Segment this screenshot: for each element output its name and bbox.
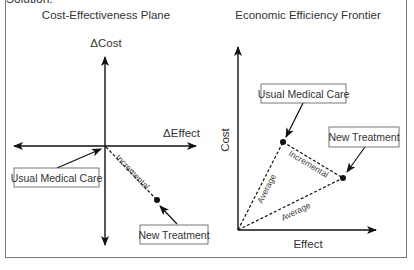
right-panel-title: Economic Efficiency Frontier (235, 9, 381, 21)
figure-canvas: Cost-Effectiveness Plane ΔCost ΔEffect I… (0, 0, 414, 270)
cost-axis-label: Cost (219, 127, 231, 151)
new-treatment-pointer-frontier (347, 147, 365, 172)
usual-care-point (280, 139, 286, 145)
new-treatment-point-frontier (340, 175, 346, 181)
new-treatment-label: New Treatment (138, 229, 209, 241)
cost-effectiveness-plane: Cost-Effectiveness Plane ΔCost ΔEffect I… (11, 9, 210, 245)
left-panel-title: Cost-Effectiveness Plane (42, 9, 170, 21)
usual-care-label-frontier: Usual Medical Care (258, 88, 350, 100)
delta-cost-axis-label: ΔCost (90, 37, 122, 49)
new-treatment-point (154, 197, 160, 203)
incremental-label-frontier: Incremental (287, 148, 330, 180)
average-label-usual-care: Average (255, 172, 278, 205)
average-line-usual-care (238, 142, 283, 230)
economic-efficiency-frontier: Economic Efficiency Frontier Cost Effect… (219, 9, 400, 250)
usual-care-pointer-frontier (286, 103, 303, 137)
new-treatment-label-frontier: New Treatment (328, 131, 399, 143)
effect-axis-label: Effect (293, 238, 323, 250)
usual-care-pointer (57, 149, 101, 168)
incremental-label: Incremental (114, 152, 152, 191)
average-label-new-treatment: Average (279, 200, 312, 223)
average-line-new-treatment (238, 178, 343, 230)
usual-care-label: Usual Medical Care (11, 172, 103, 184)
delta-effect-axis-label: ΔEffect (163, 127, 201, 139)
new-treatment-pointer (160, 206, 177, 224)
